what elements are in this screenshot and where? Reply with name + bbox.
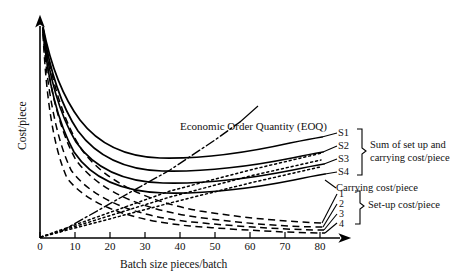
xtick-30: 30 [135, 240, 155, 252]
leader-s2 [323, 146, 337, 152]
leader-s4 [325, 172, 337, 174]
leader-s3 [324, 159, 337, 164]
series-label-s2: S2 [338, 140, 349, 151]
xtick-40: 40 [170, 240, 190, 252]
carrying-cost-label: Carrying cost/piece [336, 182, 418, 194]
series-label-4: 4 [339, 218, 344, 229]
sum-cost-group-label-line2: carrying cost/piece [370, 152, 450, 164]
setup-cost-brace-icon [355, 191, 364, 224]
chart-figure: 0 10 20 30 40 50 60 70 80 Batch size pie… [0, 0, 470, 280]
series-label-s4: S4 [338, 166, 349, 177]
sum-cost-group-label-line1: Sum of set up and [370, 139, 446, 151]
y-axis-title: Cost/piece [16, 101, 28, 150]
carrying-cost-lines [41, 153, 322, 237]
leader-carrying [325, 180, 336, 188]
carrying-line-3 [41, 153, 322, 237]
xtick-80: 80 [310, 240, 330, 252]
xtick-0: 0 [30, 240, 50, 252]
leader-n4 [325, 223, 337, 233]
xtick-70: 70 [275, 240, 295, 252]
axes [40, 26, 340, 238]
sum-cost-brace-icon [357, 129, 366, 175]
xtick-60: 60 [240, 240, 260, 252]
x-axis-ticks [40, 232, 320, 238]
xtick-20: 20 [100, 240, 120, 252]
series-label-s3: S3 [338, 153, 349, 164]
eoq-label: Economic Order Quantity (EOQ) [180, 120, 327, 132]
curve-setup-4 [43, 34, 325, 233]
setup-cost-group-label: Set-up cost/piece [368, 199, 440, 211]
x-axis-title: Batch size pieces/batch [120, 258, 227, 270]
carrying-line-1 [41, 167, 320, 237]
curve-s2 [43, 28, 323, 171]
xtick-10: 10 [65, 240, 85, 252]
xtick-50: 50 [205, 240, 225, 252]
series-label-s1: S1 [338, 127, 349, 138]
leader-s1 [322, 133, 337, 137]
